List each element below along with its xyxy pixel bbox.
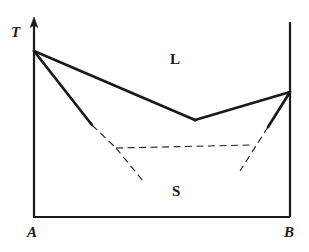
axis-frame — [30, 17, 290, 217]
liquid-region-label: L — [170, 52, 180, 67]
solid-curves-group — [34, 51, 290, 127]
solidus-a-dashed-extension — [92, 125, 116, 148]
phase-diagram-canvas — [0, 0, 309, 252]
phase-diagram-figure: T A B L S — [0, 0, 309, 252]
solid-region-label: S — [172, 184, 180, 199]
y-axis-label: T — [11, 25, 20, 40]
x-axis-right-endpoint-label: B — [284, 225, 294, 240]
x-axis-left-endpoint-label: A — [27, 225, 37, 240]
metastable-tie-line — [116, 145, 252, 148]
solidus-b-dashed-extension — [240, 127, 268, 171]
dashed-curves-group — [92, 125, 268, 181]
metastable-solvus-left-branch — [116, 148, 143, 181]
